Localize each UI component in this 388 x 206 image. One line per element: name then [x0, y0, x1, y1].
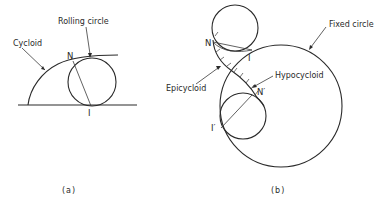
- normal-line-n-i: [213, 42, 252, 50]
- upper-rolling-circle: [212, 5, 258, 51]
- fixed-circle: [220, 45, 342, 167]
- label-point-i: I: [248, 53, 251, 63]
- label-fixed-circle: Fixed circle: [329, 20, 374, 29]
- label-point-i-prime: I′: [211, 123, 216, 133]
- cycloid-leader: [22, 48, 45, 70]
- label-epicycloid: Epicycloid: [166, 84, 206, 93]
- hypocycloid-curve: [256, 96, 264, 106]
- epicycloid-leader: [196, 68, 218, 84]
- label-cycloid: Cycloid: [13, 39, 42, 48]
- cycloid-diagram-figure: Cycloid Rolling circle N I (a): [0, 0, 388, 206]
- label-hypocycloid: Hypocycloid: [275, 71, 324, 80]
- label-point-n: N: [205, 38, 211, 48]
- rolling-circle-leader: [86, 27, 90, 54]
- caption-b: (b): [271, 186, 285, 195]
- panel-a: Cycloid Rolling circle N I (a): [13, 17, 137, 195]
- fixed-circle-leader: [311, 27, 326, 47]
- label-rolling-circle: Rolling circle: [58, 17, 109, 26]
- label-point-n: N: [67, 51, 73, 61]
- rolling-circle: [68, 58, 116, 106]
- label-point-n-prime: N′: [257, 87, 265, 97]
- panel-b: Fixed circle Epicycloid Hypocycloid N I …: [166, 5, 374, 195]
- caption-a: (a): [62, 186, 76, 195]
- rolling-circle-arrowhead: [88, 53, 92, 58]
- hypocycloid-leader: [255, 76, 273, 86]
- normal-line-n-prime-i-prime: [221, 95, 252, 128]
- label-point-i: I: [88, 108, 91, 118]
